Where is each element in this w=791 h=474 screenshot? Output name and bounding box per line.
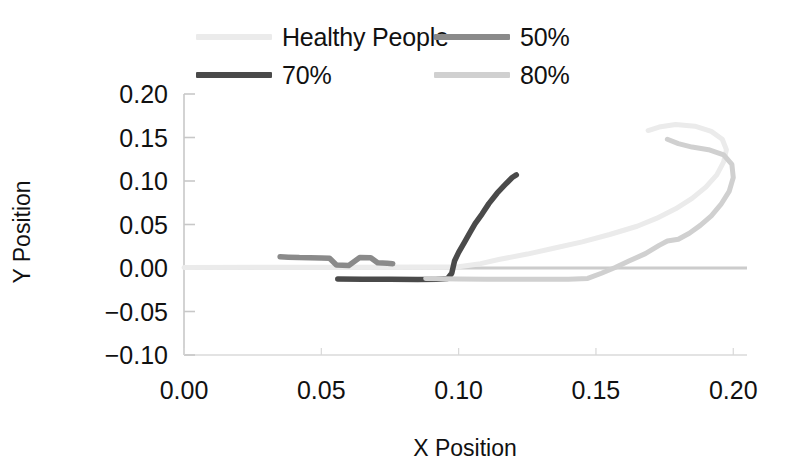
y-tick-label: 0.15 — [119, 124, 168, 152]
series-line-80 — [426, 139, 734, 279]
y-tick-label: 0.10 — [119, 167, 168, 195]
y-tick-label: −0.05 — [105, 298, 168, 326]
x-tick-label: 0.15 — [572, 376, 621, 404]
x-tick-label: 0.00 — [160, 376, 209, 404]
y-tick-label: 0.00 — [119, 254, 168, 282]
plot-svg: 0.200.150.100.050.00−0.05−0.100.000.050.… — [0, 0, 791, 474]
chart-figure: Healthy People 50% 70% 80% 0.200.150.100… — [0, 0, 791, 474]
x-tick-label: 0.20 — [709, 376, 758, 404]
x-tick-label: 0.05 — [297, 376, 346, 404]
axis-layer — [184, 94, 747, 355]
series-line-healthy-people — [184, 124, 726, 267]
plot-area: 0.200.150.100.050.00−0.05−0.100.000.050.… — [0, 0, 791, 474]
y-tick-label: 0.05 — [119, 211, 168, 239]
x-tick-label: 0.10 — [434, 376, 483, 404]
y-tick-label: −0.10 — [105, 341, 168, 369]
x-axis-title: X Position — [413, 435, 517, 461]
y-axis-title: Y Position — [9, 180, 35, 283]
series-line-50 — [280, 257, 393, 266]
y-tick-label: 0.20 — [119, 80, 168, 108]
series-layer — [184, 124, 733, 279]
